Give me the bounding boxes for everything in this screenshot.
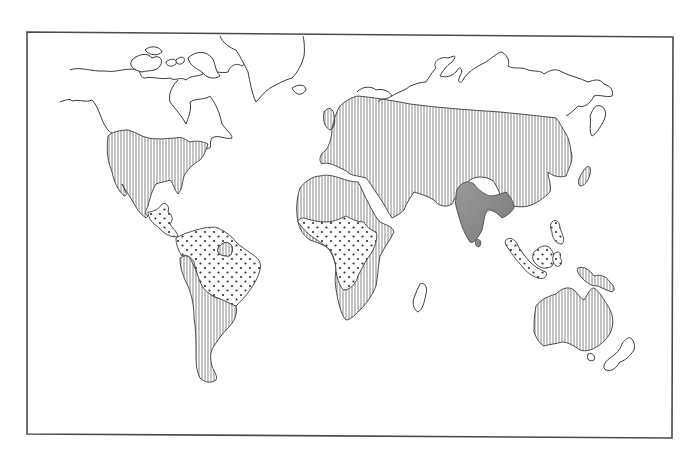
sri-lanka-shaded [475, 239, 480, 246]
world-map-canvas [0, 0, 692, 467]
western-coast [60, 99, 112, 132]
madagascar [413, 283, 426, 312]
central-america-dotted [148, 203, 178, 236]
kamchatka [590, 106, 606, 136]
world-map [0, 0, 692, 467]
sulawesi-dotted [553, 252, 562, 266]
arctic-island-3 [166, 59, 176, 66]
british-isles-hatched [323, 109, 334, 130]
tasmania [587, 353, 594, 360]
philippines-dotted [551, 220, 564, 244]
japan-hatched [578, 167, 590, 186]
arctic-island-4 [176, 57, 184, 64]
iceland [292, 85, 306, 94]
arctic-island-2 [145, 47, 162, 55]
australia-hatched [534, 288, 613, 351]
new-zealand [604, 338, 635, 371]
north-america-hatched [107, 130, 208, 218]
new-guinea-hatched [577, 267, 614, 292]
greenland [220, 36, 304, 102]
borneo-dotted [533, 246, 554, 268]
